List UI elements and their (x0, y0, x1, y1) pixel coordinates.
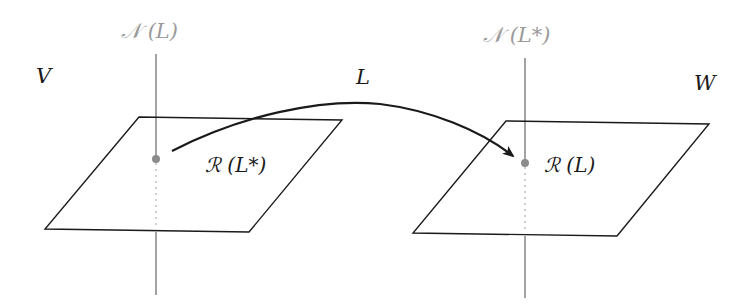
range-label-w: ℛ (L) (544, 153, 595, 177)
space-label-v: V (36, 64, 53, 88)
linear-map-diagram: 𝒩 (L) V ℛ (L*) L 𝒩 (L*) W ℛ (L) (0, 0, 752, 306)
nullspace-label-w: 𝒩 (L*) (483, 23, 551, 47)
map-arrow (172, 103, 513, 156)
origin-dot-v (152, 155, 160, 163)
plane-w (413, 121, 709, 236)
nullspace-label-v: 𝒩 (L) (121, 19, 178, 43)
space-w (413, 58, 709, 298)
map-label: L (355, 65, 370, 89)
origin-dot-w (521, 159, 529, 167)
space-label-w: W (694, 71, 718, 95)
space-v (45, 54, 342, 295)
range-label-v: ℛ (L*) (205, 153, 266, 177)
plane-v (45, 117, 342, 232)
